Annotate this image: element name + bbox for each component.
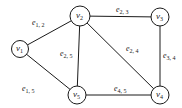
edge-v2-v5 (77, 16, 80, 95)
edge-label-e25: e2, 5 (60, 49, 73, 59)
edge-v2-v4 (80, 16, 160, 95)
node-v4: v4 (151, 86, 169, 104)
edge-label-e34: e3, 4 (163, 51, 176, 61)
edge-label-e24: e2, 4 (126, 44, 139, 54)
edge-label-e45: e4, 5 (114, 84, 127, 94)
node-v5: v5 (68, 86, 86, 104)
node-v2: v2 (70, 6, 90, 26)
edge-label-e12: e1, 2 (32, 18, 45, 28)
edge-v2-v3 (80, 16, 160, 17)
edge-label-e23: e2, 3 (116, 5, 129, 15)
edge-label-e15: e1, 5 (22, 84, 35, 94)
node-v1: v1 (12, 41, 29, 58)
node-v3: v3 (151, 8, 169, 26)
graph-diagram: e1, 2e2, 3e2, 5e2, 4e3, 4e1, 5e4, 5 v1v2… (0, 0, 182, 108)
